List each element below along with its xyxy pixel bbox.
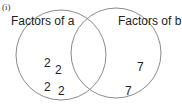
- element-a-3: 2: [44, 80, 51, 94]
- part-label: (i): [2, 2, 11, 12]
- element-a-1: 2: [44, 56, 51, 70]
- element-a-4: 2: [58, 84, 65, 98]
- element-a-2: 2: [55, 63, 62, 77]
- set-label-factors-of-a: Factors of a: [11, 14, 74, 28]
- set-label-factors-of-b: Factors of b: [118, 14, 181, 28]
- element-b-2: 7: [125, 84, 132, 98]
- element-b-1: 7: [137, 60, 144, 74]
